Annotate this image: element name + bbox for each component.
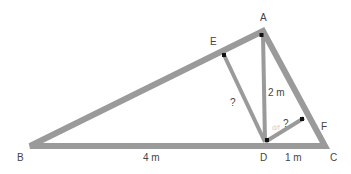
label-f: F	[321, 121, 327, 132]
segment-ad	[263, 34, 265, 142]
triangle-diagram: A B C D E F 4 m 2 m 1 m ? d/f ?	[0, 0, 351, 174]
measure-df: ?	[283, 118, 289, 129]
label-b: B	[17, 152, 24, 163]
right-angle-marker-d	[265, 138, 269, 142]
measure-df-faint: d/f	[272, 124, 280, 131]
label-d: D	[260, 152, 267, 163]
measure-bd: 4 m	[143, 152, 160, 163]
right-angle-marker-a	[260, 33, 264, 37]
right-angle-marker-e	[222, 53, 226, 57]
right-angle-marker-f	[300, 117, 304, 121]
measure-de: ?	[230, 97, 236, 108]
label-c: C	[330, 152, 337, 163]
label-a: A	[260, 12, 267, 23]
measure-dc: 1 m	[285, 152, 302, 163]
measure-ad: 2 m	[268, 87, 285, 98]
label-e: E	[210, 36, 217, 47]
